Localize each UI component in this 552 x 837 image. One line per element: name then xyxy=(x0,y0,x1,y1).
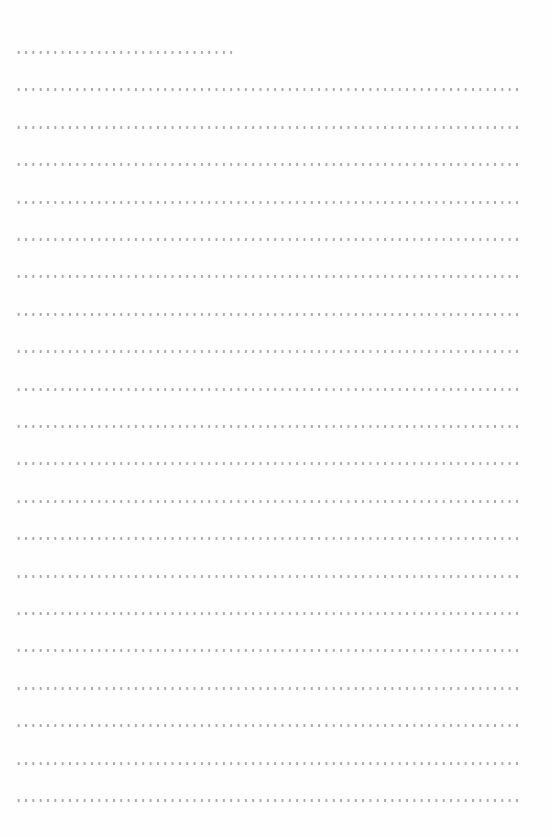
dotted-writing-line xyxy=(15,799,519,802)
dotted-writing-line xyxy=(15,762,519,765)
writing-sheet xyxy=(0,0,552,837)
dotted-writing-line xyxy=(15,88,519,91)
dotted-writing-line xyxy=(15,238,519,241)
dotted-writing-line xyxy=(15,462,519,465)
dotted-writing-line xyxy=(15,201,519,204)
dotted-writing-line xyxy=(15,687,519,690)
dotted-writing-line xyxy=(15,275,519,278)
dotted-writing-line xyxy=(15,350,519,353)
dotted-writing-line-short xyxy=(15,51,233,54)
dotted-writing-line xyxy=(15,724,519,727)
dotted-writing-line xyxy=(15,388,519,391)
dotted-writing-line xyxy=(15,126,519,129)
dotted-writing-line xyxy=(15,500,519,503)
dotted-writing-line xyxy=(15,537,519,540)
dotted-writing-line xyxy=(15,425,519,428)
dotted-writing-line xyxy=(15,313,519,316)
dotted-writing-line xyxy=(15,612,519,615)
dotted-writing-line xyxy=(15,163,519,166)
dotted-writing-line xyxy=(15,649,519,652)
dotted-writing-line xyxy=(15,575,519,578)
